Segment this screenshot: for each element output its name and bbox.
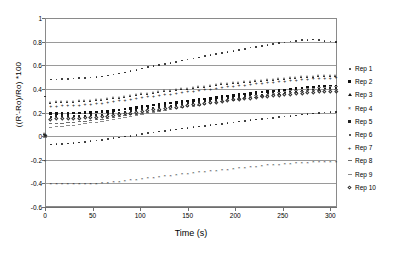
legend-item-rep-8[interactable]: Rep 8: [345, 154, 405, 167]
data-point: [249, 96, 253, 100]
legend-item-rep-1[interactable]: Rep 1: [345, 62, 405, 75]
y-tick-label: 0.4: [2, 85, 42, 92]
legend-label: Rep 6: [354, 131, 372, 138]
marker-glyph: [348, 120, 350, 122]
data-point: [117, 113, 121, 117]
legend-item-rep-2[interactable]: Rep 2: [345, 75, 405, 88]
data-point: [214, 100, 218, 104]
y-tick-label: 0.2: [2, 109, 42, 116]
marker-glyph: [349, 134, 351, 136]
data-point: [237, 97, 241, 101]
data-point: [123, 112, 127, 116]
data-point: [203, 101, 207, 105]
data-point: [328, 89, 332, 93]
data-point: [209, 101, 213, 105]
legend-marker-icon: [345, 117, 354, 126]
data-point: [294, 92, 298, 96]
data-point: [100, 115, 104, 119]
data-point: [271, 94, 275, 98]
data-point: [77, 116, 81, 120]
legend-label: Rep 7: [354, 144, 372, 151]
data-point: [254, 96, 258, 100]
legend-label: Rep 9: [354, 171, 372, 178]
legend-marker-icon: ×: [345, 104, 354, 113]
data-point: [334, 89, 338, 93]
data-point: [60, 117, 64, 121]
data-point: [152, 108, 156, 112]
data-point: [140, 109, 144, 113]
data-point: [163, 106, 167, 110]
series-rep-10: [46, 19, 336, 206]
data-point: [134, 110, 138, 114]
data-point: [72, 116, 76, 120]
data-point: [317, 90, 321, 94]
marker-glyph: [348, 174, 352, 175]
data-point: [186, 104, 190, 108]
data-point: [260, 95, 264, 99]
legend-item-rep-3[interactable]: Rep 3: [345, 88, 405, 101]
legend-label: Rep 3: [354, 91, 372, 98]
legend-item-rep-10[interactable]: Rep 10: [345, 181, 405, 194]
legend-label: Rep 10: [354, 184, 376, 191]
data-point: [55, 117, 59, 121]
x-tick-mark: [45, 207, 46, 211]
y-tick-label: -0.2: [2, 156, 42, 163]
x-tick-mark: [93, 207, 94, 211]
data-point: [106, 114, 110, 118]
data-point: [306, 91, 310, 95]
data-point: [146, 109, 150, 113]
y-tick-label: 0.6: [2, 62, 42, 69]
data-point: [220, 99, 224, 103]
marker-glyph: [348, 160, 352, 161]
y-tick-label: 1: [2, 15, 42, 22]
x-tick-mark: [188, 207, 189, 211]
x-tick-mark: [330, 207, 331, 211]
data-point: [95, 115, 99, 119]
legend-marker-icon: [345, 130, 354, 139]
legend: Rep 1Rep 2Rep 3×Rep 4Rep 5Rep 6+Rep 7Rep…: [345, 62, 405, 194]
legend-label: Rep 4: [354, 105, 372, 112]
data-point: [300, 91, 304, 95]
x-tick-mark: [140, 207, 141, 211]
data-point: [289, 92, 293, 96]
data-point: [66, 117, 70, 121]
chart-screenshot: ((R'-Ro)/Ro) *100 -0.6-0.4-0.200.20.40.6…: [0, 0, 407, 256]
plot-area: ××××××××××××××××××××××××××××××××××××××××…: [45, 18, 337, 207]
legend-marker-icon: [345, 64, 354, 73]
legend-marker-icon: [345, 90, 354, 99]
data-point: [83, 116, 87, 120]
marker-glyph: +: [348, 145, 352, 151]
legend-item-rep-6[interactable]: Rep 6: [345, 128, 405, 141]
legend-item-rep-5[interactable]: Rep 5: [345, 115, 405, 128]
data-point: [323, 90, 327, 94]
y-tick-label: 0.8: [2, 38, 42, 45]
legend-label: Rep 1: [354, 65, 372, 72]
data-point: [283, 93, 287, 97]
x-axis-label: Time (s): [45, 228, 337, 238]
data-point: [311, 90, 315, 94]
x-axis-line: [45, 207, 337, 208]
data-point: [112, 113, 116, 117]
data-point: [43, 132, 45, 135]
legend-item-rep-9[interactable]: Rep 9: [345, 168, 405, 181]
marker-glyph: [348, 80, 351, 83]
x-tick-label: 300: [315, 212, 345, 220]
marker-glyph: [348, 93, 352, 96]
data-point: [231, 98, 235, 102]
data-point: [89, 115, 93, 119]
x-tick-mark: [235, 207, 236, 211]
data-point: [192, 103, 196, 107]
marker-glyph: ×: [348, 106, 351, 111]
data-point: [180, 104, 184, 108]
data-point: [226, 99, 230, 103]
legend-marker-icon: [345, 156, 354, 165]
legend-item-rep-7[interactable]: +Rep 7: [345, 141, 405, 154]
legend-item-rep-4[interactable]: ×Rep 4: [345, 102, 405, 115]
x-tick-label: 150: [173, 212, 203, 220]
legend-label: Rep 5: [354, 118, 372, 125]
legend-marker-icon: +: [345, 143, 354, 152]
x-tick-label: 100: [125, 212, 155, 220]
data-point: [243, 97, 247, 101]
x-tick-label: 200: [220, 212, 250, 220]
legend-marker-icon: [345, 77, 354, 86]
